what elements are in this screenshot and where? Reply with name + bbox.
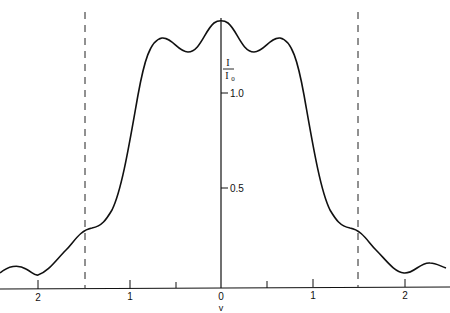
svg-text:I: I [226, 57, 229, 68]
y-ticks [221, 93, 228, 188]
intensity-profile-chart: 2 1 0 1 2 1.0 0.5 v I I 0 [0, 0, 450, 313]
x-axis-label: v [219, 303, 224, 313]
x-tick-label: 2 [402, 290, 408, 301]
svg-text:I: I [225, 70, 228, 81]
x-tick-label: 1 [310, 290, 316, 301]
x-tick-label: 2 [35, 292, 41, 303]
svg-text:0: 0 [231, 75, 235, 83]
y-tick-label: 1.0 [230, 88, 244, 99]
x-tick-label: 1 [127, 291, 133, 302]
intensity-curve [0, 21, 446, 275]
y-tick-label: 0.5 [230, 183, 244, 194]
y-axis-label: I I 0 [223, 57, 235, 83]
x-axis [0, 287, 450, 289]
x-tick-label: 0 [218, 291, 224, 302]
